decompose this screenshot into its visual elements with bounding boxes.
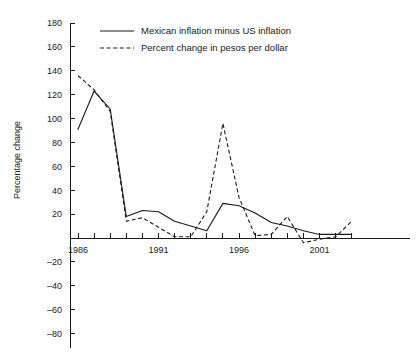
x-axis-tick-label: 1986 [68,245,88,255]
series-line-1 [78,91,352,234]
y-axis-tick-label: 120 [47,90,62,100]
x-axis-tick-label: 2001 [309,245,329,255]
y-axis-tick-label: –20 [47,257,62,267]
legend-label-1: Mexican inflation minus US inflation [141,25,291,36]
y-axis-tick-label: –60 [47,305,62,315]
y-axis-tick-label: 40 [52,186,62,196]
y-axis-title: Percentage change [12,121,22,199]
y-axis-tick-label: –40 [47,281,62,291]
x-axis-tick-label: 1996 [229,245,249,255]
y-axis-tick-label: 60 [52,162,62,172]
line-chart-canvas: –80–60–40–202040608010012014016018019861… [0,0,417,355]
y-axis-tick-label: 180 [47,18,62,28]
y-axis-tick-label: 160 [47,42,62,52]
y-axis-tick-label: –80 [47,329,62,339]
y-axis-tick-label: 80 [52,138,62,148]
legend-label-2: Percent change in pesos per dollar [141,42,288,53]
y-axis-tick-label: 140 [47,66,62,76]
x-axis-tick-label: 1991 [148,245,168,255]
y-axis-tick-label: 100 [47,114,62,124]
y-axis-tick-label: 20 [52,209,62,219]
chart-figure: –80–60–40–202040608010012014016018019861… [0,0,417,355]
